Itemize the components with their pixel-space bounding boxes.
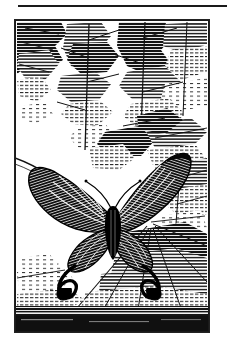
horizontal-rule <box>18 5 227 7</box>
engraving-canvas <box>15 20 209 332</box>
ground-band <box>15 306 209 332</box>
antenna-club-left <box>85 180 88 183</box>
illustration-plate <box>14 19 210 333</box>
page-root <box>0 0 227 352</box>
antenna-club-right <box>139 180 142 183</box>
